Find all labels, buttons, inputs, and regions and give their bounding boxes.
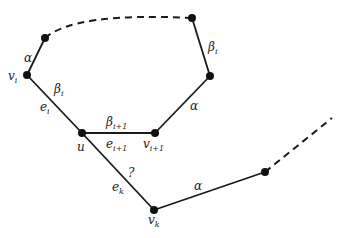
node-v-i (23, 71, 31, 79)
label-e-i1: ei+1 (106, 137, 127, 153)
edge-alpha-right (155, 76, 210, 133)
label-question: ? (128, 166, 135, 180)
graph-diagram: α vi βi ei βi α βi+1 u ei+1 vi+1 ? ek vk… (0, 0, 351, 238)
label-v-i: vi (8, 69, 18, 85)
node-right (206, 72, 214, 80)
dashed-path-lower-right (265, 118, 332, 172)
node-top-right (188, 14, 196, 22)
edge-alpha-bottom (154, 172, 265, 210)
label-u: u (77, 140, 85, 154)
node-u (78, 129, 86, 137)
node-lower-right (261, 168, 269, 176)
node-top-left (41, 34, 49, 42)
dashed-path-top (45, 17, 192, 38)
label-e-k: ek (112, 180, 124, 196)
node-v-i1 (151, 129, 159, 137)
label-beta-i-right: βi (207, 40, 218, 56)
label-v-i1: vi+1 (143, 137, 164, 153)
label-alpha-left: α (24, 51, 32, 65)
label-alpha-right: α (190, 99, 198, 113)
label-beta-i1: βi+1 (105, 115, 127, 131)
label-beta-i-left: βi (53, 82, 64, 98)
label-e-i: ei (40, 100, 50, 116)
label-alpha-bottom: α (194, 179, 202, 193)
label-v-k: vk (148, 213, 160, 229)
